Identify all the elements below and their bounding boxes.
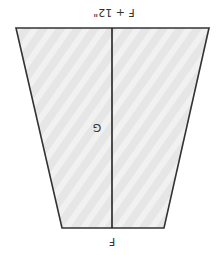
center-mark-label: G [93,121,102,134]
top-edge-label: F + 12" [93,6,135,19]
trapezoid-diagram: F + 12" G F [0,0,221,255]
bottom-edge-label: F [109,235,115,248]
